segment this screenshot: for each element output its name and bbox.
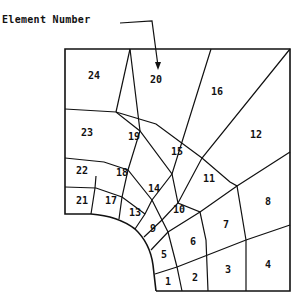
element-12: 12 [250, 129, 262, 140]
element-10: 10 [173, 204, 185, 215]
element-6: 6 [190, 236, 196, 247]
element-22: 22 [76, 165, 88, 176]
element-20: 20 [150, 74, 162, 85]
element-21: 21 [76, 195, 88, 206]
element-17: 17 [105, 195, 117, 206]
element-19: 19 [128, 131, 140, 142]
element-3: 3 [225, 264, 231, 275]
element-4: 4 [265, 259, 271, 270]
element-2: 2 [192, 272, 198, 283]
element-9: 9 [150, 223, 156, 234]
element-14: 14 [148, 183, 160, 194]
element-23: 23 [81, 127, 93, 138]
element-18: 18 [116, 167, 128, 178]
element-8: 8 [265, 196, 271, 207]
element-1: 1 [165, 276, 171, 287]
element-15: 15 [171, 146, 183, 157]
element-7: 7 [223, 219, 229, 230]
outer-boundary [65, 49, 290, 291]
annotation-arrow [120, 21, 161, 70]
element-5: 5 [161, 249, 167, 260]
element-11: 11 [203, 173, 215, 184]
hole-arc [91, 214, 156, 291]
element-13: 13 [129, 207, 141, 218]
element-24: 24 [88, 70, 100, 81]
element-16: 16 [211, 86, 223, 97]
fem-mesh-diagram: 1 2 3 4 5 6 7 8 9 10 11 12 13 14 15 16 1… [0, 0, 304, 305]
